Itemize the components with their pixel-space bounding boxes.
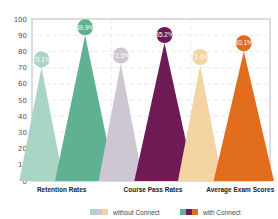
value-label: 72.5%: [112, 52, 131, 59]
value-label: 80.1%: [235, 39, 254, 46]
y-tick-label: 80: [18, 48, 27, 56]
y-tick-label: 90: [18, 32, 27, 40]
legend-swatch-4: [180, 209, 186, 215]
value-label: 85.2%: [155, 31, 174, 38]
legend-swatch-1: [90, 209, 96, 215]
legend-swatch-5: [186, 209, 192, 215]
legend-swatch-6: [192, 209, 198, 215]
value-label: 70.1%: [32, 56, 51, 63]
y-tick-label: 40: [18, 113, 27, 121]
category-label: Average Exam Scores: [206, 186, 274, 194]
legend-swatch-2: [96, 209, 102, 215]
bar-chart: 0102030405060708090100 70.1%89.9%72.5%85…: [0, 0, 278, 219]
value-label: 71.6%: [191, 53, 210, 60]
y-tick-label: 60: [18, 80, 27, 88]
legend-label-with: with Connect: [202, 209, 241, 216]
legend-swatch-3: [102, 209, 108, 215]
legend: without Connect with Connect: [90, 209, 241, 216]
y-tick-label: 70: [18, 64, 27, 72]
legend-label-without: without Connect: [112, 209, 160, 216]
legend-item-without-connect[interactable]: without Connect: [90, 209, 160, 216]
y-tick-label: 30: [18, 129, 27, 137]
x-axis-labels: Retention RatesCourse Pass RatesAverage …: [37, 186, 275, 194]
value-label: 89.9%: [76, 24, 95, 31]
y-tick-label: 50: [18, 97, 27, 105]
category-label: Course Pass Rates: [124, 186, 183, 193]
legend-item-with-connect[interactable]: with Connect: [180, 209, 241, 216]
y-tick-label: 100: [14, 16, 27, 24]
category-label: Retention Rates: [37, 186, 87, 193]
